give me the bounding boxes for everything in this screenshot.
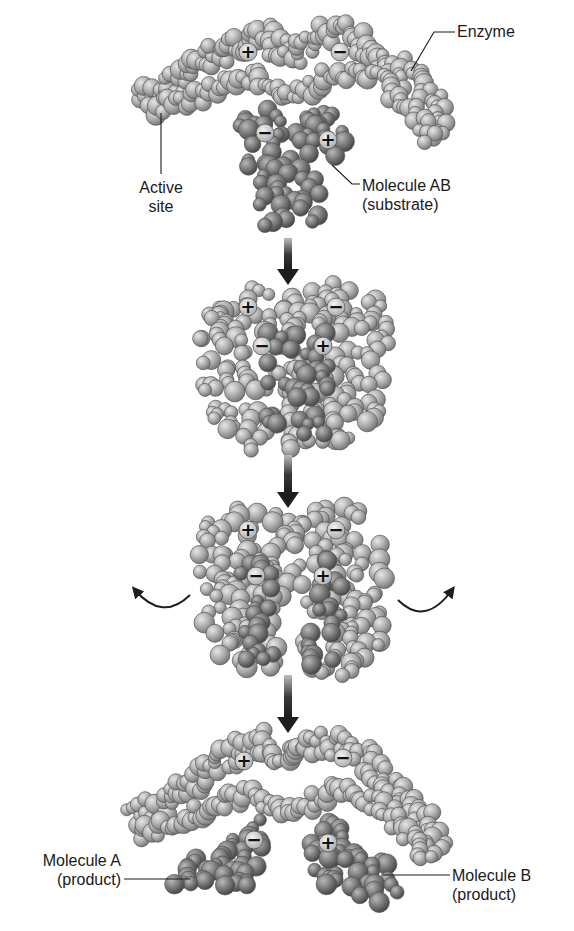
step-3-enzyme-strains-bond: +−−+ [190, 497, 394, 683]
substrate-sphere [316, 425, 333, 442]
enzyme-sphere [234, 345, 250, 361]
enzyme-sphere [235, 334, 248, 347]
product-b-sphere [304, 845, 321, 862]
product-b-label: Molecule B (product) [452, 866, 531, 904]
enzyme-sphere [208, 412, 221, 425]
enzyme-minus-charge-icon: − [335, 747, 350, 768]
enzyme-plus-charge-icon: + [240, 519, 255, 540]
enzyme-plus-charge-icon: + [236, 750, 251, 771]
down-arrow-shaft [284, 675, 292, 719]
substrate-label: Molecule AB (substrate) [362, 176, 451, 214]
enzyme-sphere [351, 510, 366, 525]
product-b-plus-charge-icon: + [320, 832, 335, 853]
substrate-sphere [238, 651, 255, 668]
substrate-sphere [234, 566, 248, 580]
enzyme-sphere [339, 553, 352, 566]
enzyme-minus-charge-icon: − [328, 519, 343, 540]
down-arrow-icon [277, 717, 299, 733]
enzyme-sphere [215, 531, 229, 545]
substrate-plus-charge-icon: + [315, 565, 330, 586]
enzyme-sphere [196, 356, 210, 370]
enzyme-sphere [374, 568, 395, 589]
enzyme-sphere [287, 537, 304, 554]
product-a-sphere [238, 877, 255, 894]
substrate-sphere [306, 215, 320, 229]
step-4-products-released: +−−+ [121, 722, 453, 912]
substrate-sphere [274, 115, 286, 127]
substrate-sphere [253, 198, 266, 211]
substrate-sphere [292, 200, 309, 217]
active-site-label-line1: Active [128, 178, 194, 197]
down-arrow-shaft [284, 455, 292, 494]
product-a-sphere [196, 872, 214, 890]
curved-arrow-left-icon [135, 590, 190, 607]
substrate-sphere [282, 340, 300, 358]
substrate-label-line2: (substrate) [362, 195, 451, 214]
enzyme-sphere [417, 135, 432, 150]
substrate-sphere [261, 375, 276, 390]
substrate-sphere [313, 603, 326, 616]
substrate-minus-charge-icon: − [254, 335, 269, 356]
enzyme-minus-charge-icon: − [332, 41, 347, 62]
enzyme-sphere [282, 440, 300, 458]
enzyme-label: Enzyme [457, 22, 515, 41]
substrate-sphere [259, 354, 277, 372]
enzyme-plus-charge-icon: + [240, 41, 255, 62]
enzyme-sphere [293, 576, 311, 594]
enzyme-sphere [199, 383, 212, 396]
substrate-plus-charge-icon: + [315, 335, 330, 356]
enzyme-sphere [263, 288, 275, 300]
enzyme-sphere [357, 411, 377, 431]
substrate-sphere [322, 623, 341, 642]
product-a-sphere [215, 876, 234, 895]
active-site-label: Active site [128, 178, 194, 216]
enzyme-plus-charge-icon: + [240, 296, 255, 317]
substrate-sphere [258, 218, 273, 233]
enzyme-sphere [210, 589, 223, 602]
substrate-sphere [267, 414, 287, 434]
substrate-plus-charge-icon: + [320, 129, 335, 150]
substrate-leader-line [332, 165, 360, 184]
enzyme-sphere [354, 320, 369, 335]
enzyme-sphere [193, 331, 208, 346]
substrate-sphere [332, 578, 350, 596]
substrate-sphere [256, 652, 270, 666]
curved-arrow-right-icon [398, 590, 452, 611]
enzyme-label-text: Enzyme [457, 22, 515, 41]
down-arrow-shaft [284, 238, 292, 271]
enzyme-sphere [218, 419, 238, 439]
substrate-sphere [262, 579, 280, 597]
product-a-label-line1: Molecule A [14, 851, 121, 870]
substrate-sphere [297, 426, 312, 441]
enzyme-sphere [350, 569, 364, 583]
substrate-sphere [310, 185, 328, 203]
enzyme-diagram: +−−+ +−−+ +−−+ +−−+ [0, 0, 574, 931]
product-a-sphere [165, 874, 185, 894]
product-b-sphere [369, 892, 389, 912]
product-b-label-line2: (product) [452, 885, 531, 904]
enzyme-sphere [335, 668, 349, 682]
enzyme-sphere [193, 565, 206, 578]
product-b-sphere [316, 874, 337, 895]
substrate-sphere [325, 652, 341, 668]
down-arrow-icon [277, 492, 299, 508]
substrate-sphere [320, 381, 335, 396]
substrate-minus-charge-icon: − [257, 122, 272, 143]
substrate-sphere [302, 655, 322, 675]
product-b-sphere [352, 887, 369, 904]
substrate-sphere [288, 388, 307, 407]
product-a-label: Molecule A (product) [14, 851, 121, 889]
step-2-substrate-bound-in-active-site: +−−+ [193, 276, 396, 458]
enzyme-sphere [331, 431, 350, 450]
substrate-sphere [240, 157, 258, 175]
enzyme-sphere [190, 546, 208, 564]
enzyme-sphere [244, 443, 258, 457]
down-arrow-icon [277, 269, 299, 285]
enzyme-sphere [425, 850, 438, 863]
substrate-minus-charge-icon: − [248, 565, 263, 586]
enzyme-sphere [206, 624, 224, 642]
enzyme-sphere [210, 645, 230, 665]
product-a-minus-charge-icon: − [246, 829, 261, 850]
substrate-label-line1: Molecule AB [362, 176, 451, 195]
enzyme-sphere [372, 639, 384, 651]
